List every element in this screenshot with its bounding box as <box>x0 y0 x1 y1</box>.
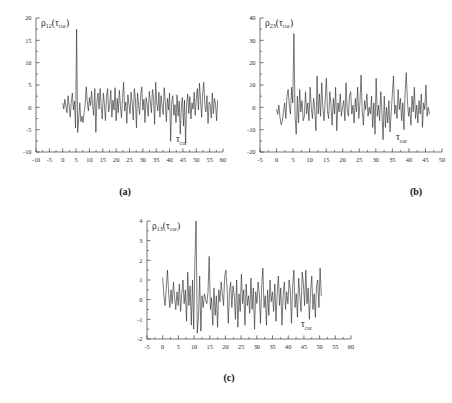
x-tick-label: 40 <box>285 343 291 350</box>
panel-c-caption: (c) <box>209 372 249 383</box>
x-tick-label: 35 <box>153 156 159 163</box>
y-tick-label: -10 <box>23 148 31 155</box>
y-tick-label: 0 <box>28 104 31 111</box>
figure-root: -10-5051015202530354045505560-10-5051015… <box>0 0 452 403</box>
x-tick-label: 10 <box>86 156 92 163</box>
y-axis-title: ρ23(τcor) <box>265 18 293 29</box>
y-tick-label: 3 <box>139 237 142 244</box>
panel-c: -5051015202530354045505560-2-101234ρ13(τ… <box>113 205 361 370</box>
x-tick-label: 10 <box>191 343 197 350</box>
panel-b-caption: (b) <box>396 186 436 197</box>
x-tick-label: 20 <box>113 156 119 163</box>
y-tick-label: 20 <box>249 59 255 66</box>
x-tick-label: 30 <box>373 156 379 163</box>
y-axis-title: ρ12(τcor) <box>41 18 69 29</box>
x-tick-label: 60 <box>220 156 226 163</box>
x-tick-label: 35 <box>269 343 275 350</box>
panel-a: -10-5051015202530354045505560-10-5051015… <box>0 0 230 185</box>
x-tick-label: 60 <box>348 343 354 350</box>
y-tick-label: 0 <box>252 104 255 111</box>
y-tick-label: -10 <box>247 126 255 133</box>
x-tick-label: 20 <box>340 156 346 163</box>
x-tick-label: 35 <box>389 156 395 163</box>
y-tick-label: -1 <box>137 316 142 323</box>
data-trace-b <box>277 34 430 140</box>
y-tick-label: 2 <box>139 257 142 264</box>
y-tick-label: -2 <box>137 335 142 342</box>
y-tick-label: 0 <box>139 296 142 303</box>
x-tick-label: 30 <box>140 156 146 163</box>
x-tick-label: 25 <box>356 156 362 163</box>
x-tick-label: 15 <box>100 156 106 163</box>
x-tick-label: 15 <box>207 343 213 350</box>
x-axis-title: τcor <box>396 132 407 144</box>
y-axis-title: ρ13(τcor) <box>152 221 180 232</box>
x-tick-label: 25 <box>238 343 244 350</box>
y-tick-label: 4 <box>139 217 143 224</box>
panel-c-plot: -5051015202530354045505560-2-101234ρ13(τ… <box>113 205 361 370</box>
x-tick-label: 0 <box>61 156 64 163</box>
data-trace-a <box>63 29 218 143</box>
x-tick-label: 30 <box>254 343 260 350</box>
x-tick-label: -5 <box>257 156 262 163</box>
x-tick-label: 0 <box>275 156 278 163</box>
data-trace-c <box>163 221 322 333</box>
panel-a-plot: -10-5051015202530354045505560-10-5051015… <box>0 0 230 185</box>
y-tick-label: -20 <box>247 148 255 155</box>
x-tick-label: 20 <box>222 343 228 350</box>
y-tick-label: 10 <box>249 81 255 88</box>
panel-a-caption: (a) <box>105 186 145 197</box>
x-tick-label: -10 <box>32 156 40 163</box>
y-tick-label: 10 <box>25 59 31 66</box>
x-tick-label: 50 <box>193 156 199 163</box>
x-tick-label: 45 <box>422 156 428 163</box>
x-tick-label: 15 <box>323 156 329 163</box>
x-tick-label: 40 <box>406 156 412 163</box>
x-tick-label: 55 <box>206 156 212 163</box>
x-tick-label: 50 <box>439 156 445 163</box>
x-tick-label: 0 <box>161 343 164 350</box>
x-tick-label: 5 <box>177 343 180 350</box>
x-tick-label: 45 <box>180 156 186 163</box>
x-tick-label: 55 <box>332 343 338 350</box>
panel-b: -505101520253035404550-20-10010203040ρ23… <box>228 0 452 185</box>
x-tick-label: 5 <box>292 156 295 163</box>
x-tick-label: 50 <box>316 343 322 350</box>
axes-c: -5051015202530354045505560-2-101234 <box>137 217 354 349</box>
x-tick-label: 10 <box>306 156 312 163</box>
x-axis-title: τcor <box>301 319 312 331</box>
y-tick-label: 30 <box>249 37 255 44</box>
x-tick-label: -5 <box>47 156 52 163</box>
panel-b-plot: -505101520253035404550-20-10010203040ρ23… <box>228 0 452 185</box>
x-tick-label: 25 <box>126 156 132 163</box>
y-tick-label: -5 <box>26 126 31 133</box>
y-tick-label: 15 <box>25 37 31 44</box>
x-tick-label: -5 <box>144 343 149 350</box>
y-tick-label: 40 <box>249 14 255 21</box>
y-tick-label: 5 <box>28 81 31 88</box>
x-tick-label: 5 <box>74 156 77 163</box>
axes-a: -10-5051015202530354045505560-10-5051015… <box>23 14 226 162</box>
y-tick-label: 1 <box>139 276 142 283</box>
x-tick-label: 40 <box>166 156 172 163</box>
y-tick-label: 20 <box>25 14 31 21</box>
x-tick-label: 45 <box>301 343 307 350</box>
